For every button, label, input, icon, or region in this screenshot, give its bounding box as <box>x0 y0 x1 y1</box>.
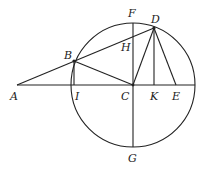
point-c <box>132 84 135 87</box>
segment-c-d <box>133 28 154 85</box>
label-g: G <box>128 152 137 165</box>
label-k: K <box>149 90 159 103</box>
geometry-diagram: A B C D E F G H I K <box>0 0 210 174</box>
label-e: E <box>171 90 180 103</box>
label-f: F <box>127 7 136 20</box>
segment-b-c <box>74 61 133 85</box>
segment-d-e <box>154 28 176 85</box>
label-d: D <box>150 13 160 26</box>
point-b <box>72 59 75 62</box>
point-d <box>152 26 155 29</box>
label-c: C <box>121 90 130 103</box>
label-b: B <box>63 49 72 62</box>
label-h: H <box>120 41 131 54</box>
label-a: A <box>9 90 18 103</box>
label-i: I <box>74 90 80 103</box>
